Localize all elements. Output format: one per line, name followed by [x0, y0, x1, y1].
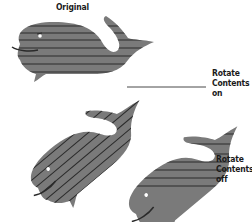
label-line: Contents	[216, 164, 252, 174]
label-line: on	[212, 88, 249, 98]
diagram-stage: Original Rotate Contents on Rotate Conte…	[0, 0, 252, 222]
label-line: Rotate	[212, 68, 249, 78]
label-line: Rotate	[216, 154, 252, 164]
label-rotate-contents-off: Rotate Contents off	[216, 154, 252, 184]
label-original: Original	[56, 2, 89, 12]
label-line: Contents	[212, 78, 249, 88]
label-original-text: Original	[56, 2, 89, 12]
label-line: off	[216, 174, 252, 184]
eye-icon	[38, 34, 42, 38]
whale-illustration	[0, 0, 252, 222]
label-rotate-contents-on: Rotate Contents on	[212, 68, 249, 98]
